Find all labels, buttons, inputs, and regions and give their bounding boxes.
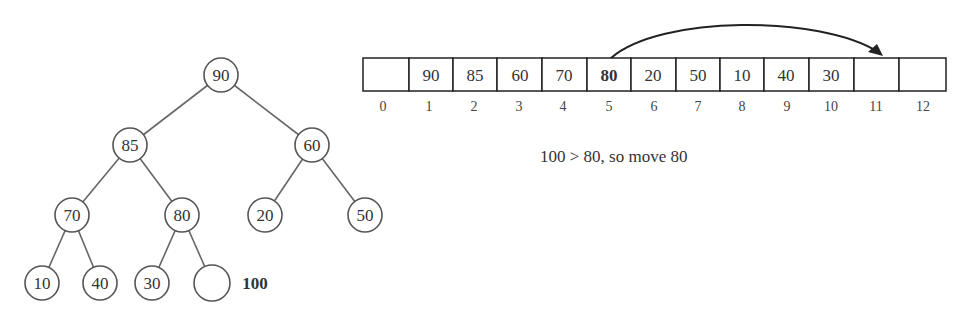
- cell-value: 40: [778, 66, 795, 85]
- index-label: 0: [380, 99, 387, 114]
- cell-value: 85: [467, 66, 484, 85]
- heap-insert-diagram: 90 85 60 70 80 20 50 10 40 30 100 90 85 …: [0, 0, 955, 324]
- cell-value: 70: [556, 66, 573, 85]
- cell-value: 10: [734, 66, 751, 85]
- index-label: 12: [916, 99, 930, 114]
- index-label: 5: [606, 99, 613, 114]
- index-label: 9: [784, 99, 791, 114]
- tree-node: 10: [25, 266, 59, 300]
- node-value: 40: [92, 274, 109, 293]
- tree-node: 85: [113, 128, 147, 162]
- index-label: 1: [426, 99, 433, 114]
- node-value: 10: [34, 274, 51, 293]
- tree-node: 40: [83, 266, 117, 300]
- tree-node: 30: [135, 266, 169, 300]
- index-label: 8: [739, 99, 746, 114]
- caption: 100 > 80, so move 80: [540, 147, 687, 166]
- index-label: 11: [869, 99, 882, 114]
- node-value: 60: [304, 136, 321, 155]
- node-value: 90: [213, 66, 230, 85]
- node-value: 70: [64, 206, 81, 225]
- node-value: 20: [257, 206, 274, 225]
- index-label: 6: [651, 99, 658, 114]
- index-label: 7: [695, 99, 702, 114]
- node-value: 30: [144, 274, 161, 293]
- index-label: 2: [471, 99, 478, 114]
- array-cell: [363, 58, 409, 91]
- tree-node: 90: [204, 58, 238, 92]
- array-cell: [899, 58, 946, 91]
- cell-value: 50: [690, 66, 707, 85]
- tree-node: 50: [348, 198, 382, 232]
- index-label: 10: [824, 99, 838, 114]
- node-value: 80: [174, 206, 191, 225]
- node-value: 50: [357, 206, 374, 225]
- new-value-label: 100: [242, 274, 268, 293]
- array-cell: [854, 58, 899, 91]
- node-value: 85: [122, 136, 139, 155]
- index-label: 3: [516, 99, 523, 114]
- tree-node: 70: [55, 198, 89, 232]
- tree-node: 20: [248, 198, 282, 232]
- tree-node: 80: [165, 198, 199, 232]
- index-label: 4: [560, 99, 567, 114]
- cell-value: 30: [823, 66, 840, 85]
- cell-value: 60: [512, 66, 529, 85]
- cell-value: 20: [645, 66, 662, 85]
- empty-tree-node: [194, 265, 230, 301]
- cell-value: 90: [423, 66, 440, 85]
- tree-node: 60: [295, 128, 329, 162]
- move-arrow: [611, 25, 883, 58]
- cell-value-highlighted: 80: [601, 66, 618, 85]
- tree-edges: [42, 75, 365, 283]
- heap-array: 90 85 60 70 80 20 50 10 40 30 0 1 2 3 4 …: [363, 58, 946, 114]
